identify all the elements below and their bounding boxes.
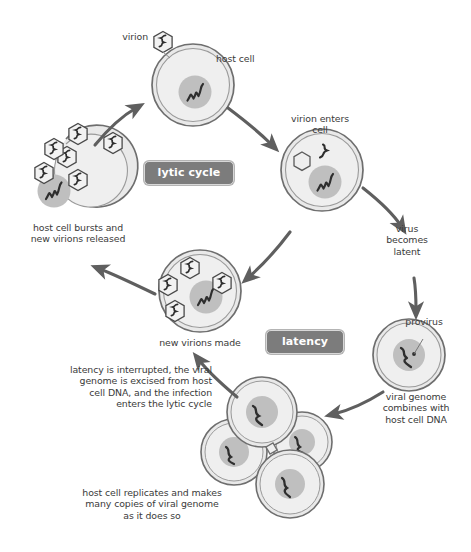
label-host-cell-bursts: host cell bursts and new virions release… [6, 222, 150, 245]
virion-free-top [154, 32, 172, 53]
diagram-canvas: virion host cell virion enters cell viru… [0, 0, 471, 552]
empty-capsid-icon [294, 152, 310, 170]
label-provirus: provirus [393, 316, 455, 327]
stage-host-cell [152, 32, 234, 127]
label-latency-interrupted: latency is interrupted, the viral genome… [32, 364, 212, 410]
stage-new-virions-cell [159, 250, 241, 332]
arrow-infected-to-new-virions [249, 232, 290, 277]
label-virus-becomes-latent: virus becomes latent [372, 223, 442, 257]
stage-bursting-cell [35, 124, 138, 208]
arrow-provirus-to-replicating [414, 278, 416, 310]
viral-cycle-illustration [0, 0, 471, 552]
label-host-cell-replicates: host cell replicates and makes many copi… [56, 487, 248, 521]
label-host-cell: host cell [216, 53, 286, 64]
badge-latency[interactable]: latency [266, 330, 344, 354]
label-virion-enters-cell: virion enters cell [274, 113, 366, 136]
arrow-new-virions-to-burst [100, 269, 155, 294]
arrow-infected-to-latent [363, 188, 401, 226]
arrow-host-to-infected [228, 108, 272, 145]
stage-infected-cell [281, 129, 363, 211]
stage-provirus-cell [373, 319, 445, 391]
label-viral-genome-combines: viral genome combines with host cell DNA [364, 391, 468, 425]
label-new-virions-made: new virions made [143, 337, 257, 348]
badge-lytic-cycle[interactable]: lytic cycle [144, 161, 234, 185]
label-virion: virion [88, 31, 148, 42]
